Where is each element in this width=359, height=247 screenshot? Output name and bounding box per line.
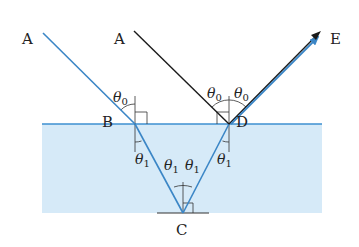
label-A-left: A (21, 30, 33, 48)
ray-incident-A-to-D (134, 31, 229, 124)
label-C: C (176, 221, 187, 239)
angle-label-theta0-D-incident: θ0 (207, 85, 222, 103)
right-angle-marker-B (135, 112, 147, 124)
label-D: D (236, 113, 248, 131)
water-region (42, 124, 322, 213)
angle-label-theta0-B: θ0 (113, 89, 128, 107)
label-E: E (330, 30, 341, 48)
angle-label-theta0-D-reflected: θ0 (234, 85, 249, 103)
label-B: B (102, 113, 113, 131)
reflection-refraction-diagram: A A B D C E θ0 θ0 θ0 θ1 θ1 θ1 θ1 (0, 0, 359, 247)
label-A-right: A (113, 30, 125, 48)
ray-reflected-D-to-E-black (229, 34, 318, 124)
ray-emerging-D-to-E-blue (231, 37, 318, 124)
